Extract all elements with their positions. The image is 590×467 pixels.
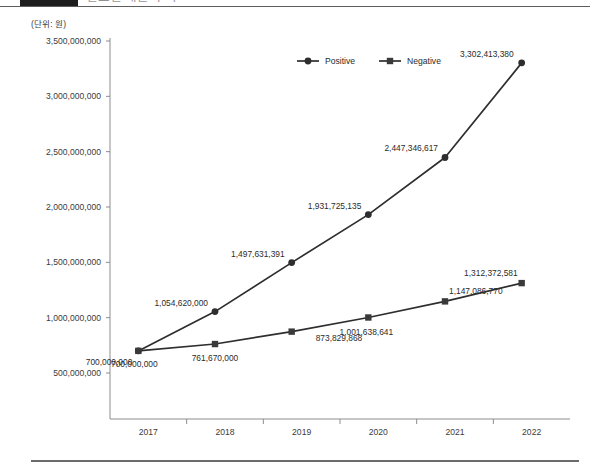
x-tick-label: 2018 — [215, 427, 234, 437]
chart-page: 연도별 매출 추이 (단위: 원) 500,000,0001,000,000,0… — [0, 0, 590, 467]
legend-marker — [305, 58, 312, 65]
data-label: 3,302,413,380 — [460, 49, 514, 59]
data-label: 2,447,346,617 — [384, 143, 438, 153]
line-chart: 500,000,0001,000,000,0001,500,000,0002,0… — [0, 0, 590, 450]
x-tick-label: 2019 — [292, 427, 311, 437]
data-point[interactable] — [518, 59, 525, 66]
data-label: 1,497,631,391 — [231, 249, 285, 259]
y-tick-label: 1,000,000,000 — [46, 313, 101, 323]
data-point[interactable] — [365, 314, 371, 320]
y-tick-label: 3,000,000,000 — [46, 91, 101, 101]
data-point[interactable] — [288, 259, 295, 266]
data-label: 1,931,725,135 — [308, 201, 362, 211]
x-tick-label: 2017 — [139, 427, 158, 437]
x-tick-label: 2022 — [522, 427, 541, 437]
data-point[interactable] — [442, 298, 448, 304]
data-point[interactable] — [288, 328, 294, 334]
data-point[interactable] — [365, 211, 372, 218]
y-tick-label: 2,000,000,000 — [46, 202, 101, 212]
data-point[interactable] — [518, 280, 524, 286]
data-label: 1,001,638,641 — [340, 327, 394, 337]
y-tick-label: 1,500,000,000 — [46, 257, 101, 267]
y-tick-label: 2,500,000,000 — [46, 147, 101, 157]
legend-label-negative: Negative — [407, 56, 441, 66]
data-point[interactable] — [212, 308, 219, 315]
data-label: 1,054,620,000 — [154, 298, 208, 308]
x-tick-label: 2020 — [369, 427, 388, 437]
data-point[interactable] — [135, 348, 141, 354]
y-tick-label: 3,500,000,000 — [46, 36, 101, 46]
legend-label-positive: Positive — [325, 56, 355, 66]
data-label: 761,670,000 — [192, 353, 239, 363]
data-label: 1,147,086,770 — [449, 286, 503, 296]
data-label: 1,312,372,581 — [464, 268, 518, 278]
data-point[interactable] — [212, 341, 218, 347]
footer-divider — [31, 460, 579, 462]
legend-marker — [387, 58, 393, 64]
y-tick-label: 500,000,000 — [53, 368, 101, 378]
data-label: 700,000,000 — [111, 359, 158, 369]
data-point[interactable] — [442, 154, 449, 161]
x-tick-label: 2021 — [445, 427, 464, 437]
